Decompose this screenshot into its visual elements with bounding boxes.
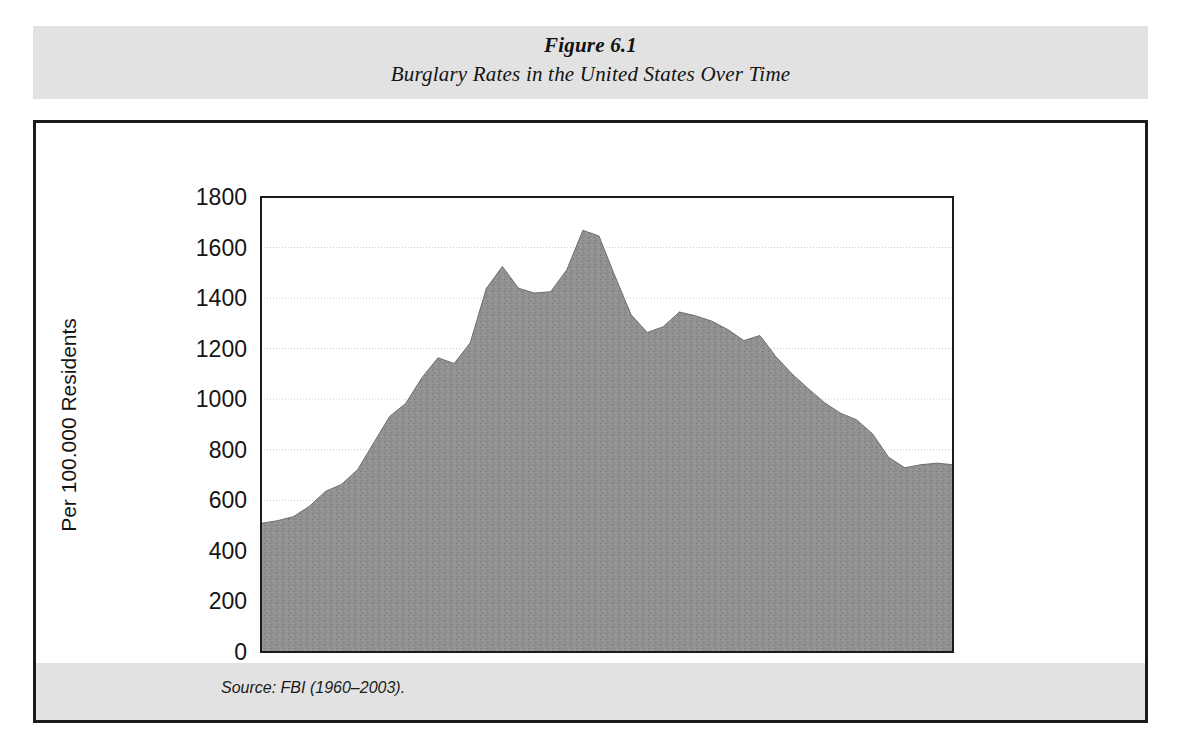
y-axis-tick-label: 200 <box>209 588 247 614</box>
figure-container: Figure 6.1 Burglary Rates in the United … <box>33 26 1148 723</box>
y-axis-tick-label: 800 <box>209 437 247 463</box>
y-axis-tick-label: 1200 <box>196 336 247 362</box>
y-axis-tick-label: 400 <box>209 538 247 564</box>
figure-title-band: Figure 6.1 Burglary Rates in the United … <box>33 26 1148 99</box>
y-axis-tick-label: 1000 <box>196 386 247 412</box>
y-axis-tick-labels: 020040060080010001200140016001800 <box>196 184 247 665</box>
y-axis-tick-label: 1400 <box>196 285 247 311</box>
source-band: Source: FBI (1960–2003). <box>36 663 1145 720</box>
y-axis-tick-label: 600 <box>209 487 247 513</box>
chart-plot-container: 020040060080010001200140016001800 196019… <box>36 123 1145 669</box>
source-note: Source: FBI (1960–2003). <box>221 679 405 697</box>
y-axis-tick-label: 1600 <box>196 235 247 261</box>
figure-frame: 020040060080010001200140016001800 196019… <box>33 120 1148 723</box>
figure-title: Burglary Rates in the United States Over… <box>33 64 1148 85</box>
y-axis-tick-label: 1800 <box>196 184 247 210</box>
y-axis-title: Per 100.000 Residents <box>57 318 80 532</box>
burglary-rate-area-chart: 020040060080010001200140016001800 196019… <box>36 123 1145 669</box>
figure-number-label: Figure 6.1 <box>33 35 1148 56</box>
